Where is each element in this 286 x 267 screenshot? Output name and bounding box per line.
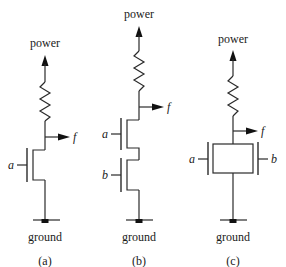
parallel-channel-c xyxy=(213,144,253,173)
ground-label-a: ground xyxy=(28,230,62,244)
resistor-icon-a xyxy=(40,82,50,121)
output-label-a: f xyxy=(73,130,78,144)
input-label-b-a: a xyxy=(102,127,108,141)
input-label-c-a: a xyxy=(189,152,195,166)
output-arrow-icon-c xyxy=(246,128,258,135)
ground-icon-a xyxy=(42,219,49,223)
circuit-c: power f a b ground (c) xyxy=(189,32,277,267)
transistor-channel-b-a xyxy=(127,120,139,160)
ground-label-c: ground xyxy=(216,230,250,244)
caption-c: (c) xyxy=(226,254,239,267)
power-label-b: power xyxy=(124,7,154,21)
ground-label-b: ground xyxy=(122,230,156,244)
circuit-b: power f a b ground (b) xyxy=(102,7,172,267)
resistor-icon-c xyxy=(228,76,238,116)
caption-a: (a) xyxy=(38,254,51,267)
circuit-diagram: power f a ground (a) power f a xyxy=(0,0,286,267)
output-label-c: f xyxy=(261,124,266,138)
output-arrow-icon-b xyxy=(152,104,164,111)
ground-icon-b xyxy=(136,219,143,223)
input-label-c-b: b xyxy=(271,152,277,166)
output-label-b: f xyxy=(167,100,172,114)
power-label-a: power xyxy=(30,36,60,50)
transistor-channel-b-b xyxy=(127,160,139,190)
transistor-channel-a xyxy=(33,150,45,180)
power-label-c: power xyxy=(218,32,248,46)
output-arrow-icon-a xyxy=(58,134,70,141)
circuit-a: power f a ground (a) xyxy=(8,36,78,267)
input-label-a: a xyxy=(8,158,14,172)
ground-icon-c xyxy=(230,219,237,223)
resistor-icon-b xyxy=(134,51,144,91)
input-label-b-b: b xyxy=(102,168,108,182)
caption-b: (b) xyxy=(132,254,146,267)
